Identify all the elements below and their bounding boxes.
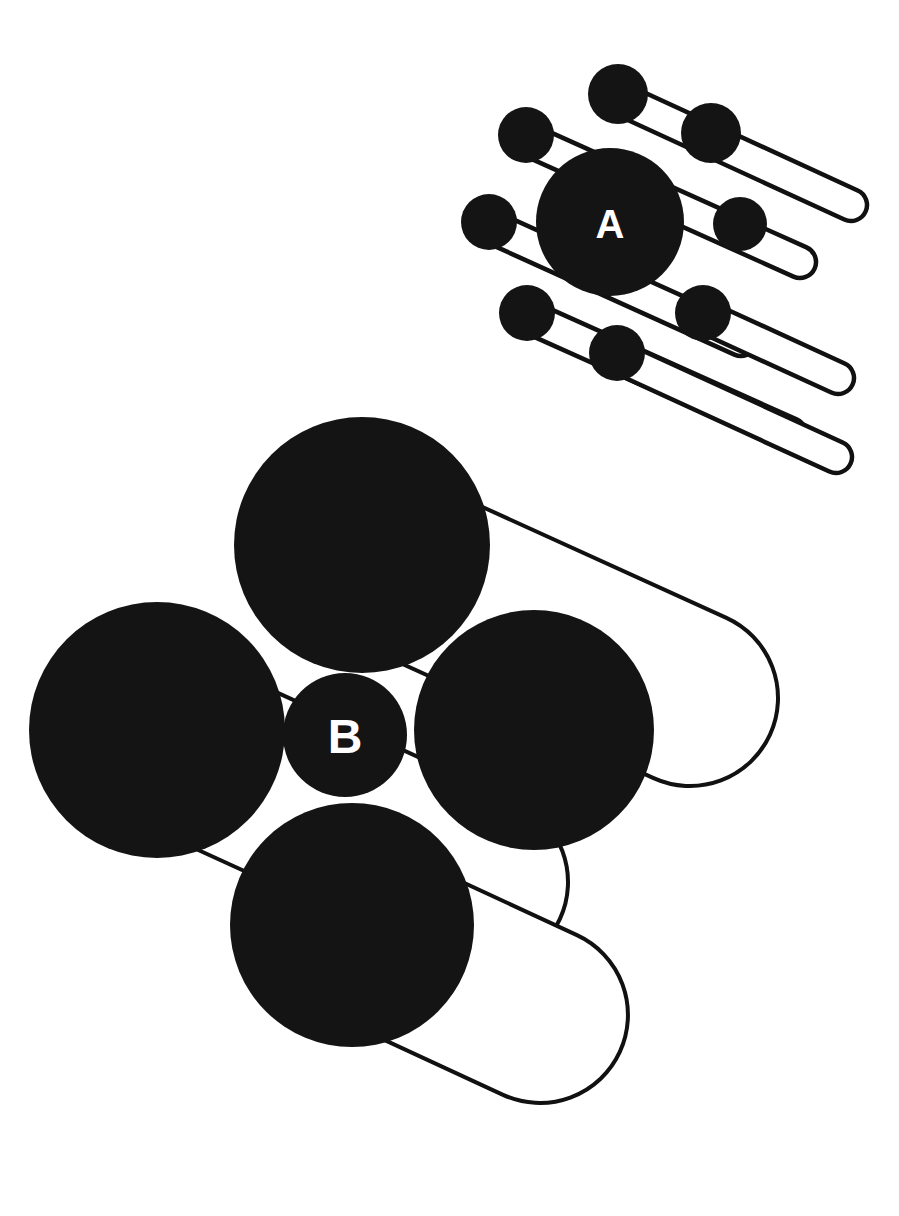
- structure-a-corner-right-inner: [713, 197, 767, 251]
- structure-a-corner-upper-right: [681, 103, 741, 163]
- structure-a-corner-lower-left: [499, 285, 555, 341]
- structure-a-corner-top: [588, 64, 648, 124]
- structure-a-spheres: [461, 64, 767, 381]
- structure-b-large-right: [414, 610, 654, 850]
- structure-a-corner-upper-left: [498, 107, 554, 163]
- structure-b-large-left: [29, 602, 285, 858]
- structure-b-large-top: [234, 417, 490, 673]
- structure-a-corner-bottom: [589, 325, 645, 381]
- packing-diagram-svg: B A: [0, 0, 899, 1216]
- structure-b-large-bottom: [230, 803, 474, 1047]
- structure-a-corner-lower-right: [675, 285, 731, 341]
- structure-a-corner-left: [461, 194, 517, 250]
- figure-root: B A: [0, 0, 899, 1216]
- structure-b-center-small: [283, 673, 407, 797]
- structure-a-center-large: [536, 148, 684, 296]
